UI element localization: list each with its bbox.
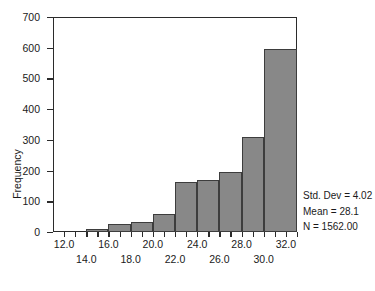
x-tick-label: 30.0 (247, 254, 281, 265)
x-tick-label: 16.0 (91, 239, 125, 250)
y-tick-mark (47, 78, 53, 79)
histogram-bar (219, 172, 241, 232)
y-tick-label: 600 (22, 43, 40, 53)
x-tick-mark (64, 232, 65, 237)
y-tick-label: 400 (22, 104, 40, 114)
histogram-bar (197, 180, 219, 232)
x-tick-mark (153, 232, 154, 237)
x-tick-mark (86, 232, 87, 237)
y-tick-label: 300 (22, 135, 40, 145)
x-tick-mark (108, 232, 109, 237)
y-axis-title: Frequency (11, 134, 23, 214)
stat-mean: Mean = 28.1 (303, 204, 372, 220)
x-tick-mark (208, 232, 209, 237)
x-tick-mark (197, 232, 198, 237)
histogram-bar (242, 137, 264, 232)
x-tick-label: 12.0 (47, 239, 81, 250)
x-tick-mark (142, 232, 143, 237)
x-tick-label: 18.0 (114, 254, 148, 265)
x-tick-mark (264, 232, 265, 237)
histogram-figure: 0100200300400500600700 Frequency 12.016.… (0, 0, 375, 291)
statistics-annotation: Std. Dev = 4.02 Mean = 28.1 N = 1562.00 (303, 188, 372, 235)
x-tick-mark (97, 232, 98, 237)
x-tick-mark (297, 232, 298, 237)
x-tick-mark (253, 232, 254, 237)
y-tick-mark (47, 232, 53, 233)
stat-n: N = 1562.00 (303, 219, 372, 235)
x-tick-label: 20.0 (136, 239, 170, 250)
y-tick-mark (47, 140, 53, 141)
x-tick-label: 24.0 (180, 239, 214, 250)
y-tick-mark (47, 17, 53, 18)
x-tick-mark (175, 232, 176, 237)
histogram-bar (153, 214, 175, 232)
y-tick-label: 700 (22, 12, 40, 22)
x-tick-mark (219, 232, 220, 237)
x-tick-label: 22.0 (158, 254, 192, 265)
x-tick-mark (286, 232, 287, 237)
x-tick-mark (242, 232, 243, 237)
y-tick-mark (47, 171, 53, 172)
x-tick-label: 32.0 (269, 239, 303, 250)
x-tick-mark (230, 232, 231, 237)
y-tick-label: 200 (22, 166, 40, 176)
x-tick-mark (131, 232, 132, 237)
histogram-bar (108, 224, 130, 232)
x-tick-label: 14.0 (69, 254, 103, 265)
y-tick-label: 100 (22, 196, 40, 206)
x-tick-mark (275, 232, 276, 237)
y-tick-label: 500 (22, 73, 40, 83)
plot-area (53, 17, 297, 232)
x-tick-label: 28.0 (225, 239, 259, 250)
y-tick-mark (47, 201, 53, 202)
y-axis: 0100200300400500600700 (0, 0, 53, 260)
y-tick-label: 0 (34, 227, 40, 237)
histogram-bar (175, 182, 197, 232)
y-tick-mark (47, 48, 53, 49)
x-tick-mark (75, 232, 76, 237)
histogram-bar (131, 222, 153, 232)
y-tick-mark (47, 109, 53, 110)
x-tick-mark (164, 232, 165, 237)
stat-std-dev: Std. Dev = 4.02 (303, 188, 372, 204)
x-tick-label: 26.0 (202, 254, 236, 265)
x-tick-mark (120, 232, 121, 237)
histogram-bar (264, 49, 297, 232)
x-tick-mark (186, 232, 187, 237)
